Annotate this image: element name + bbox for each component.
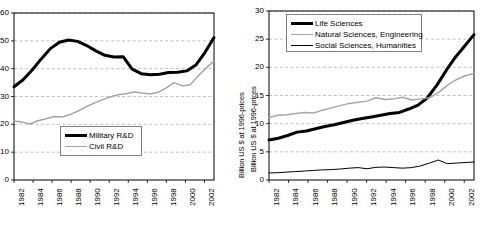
left-chart-y-tick-label: 50 xyxy=(0,37,9,45)
right-chart-x-tick-label: 1982 xyxy=(273,188,281,206)
left-chart-x-tick-label: 1992 xyxy=(113,188,121,206)
legend-item-natural-sciences: Natural Sciences, Engineering xyxy=(291,29,417,40)
right-chart-y-tick-label: 25 xyxy=(247,35,264,43)
right-chart-y-tick-label: 15 xyxy=(247,92,264,100)
figure-two-line-charts: Billion US $ at 1996-prices Military R&D… xyxy=(0,0,484,225)
left-chart-x-tick-label: 1982 xyxy=(18,188,26,206)
legend-swatch-life-sciences xyxy=(291,22,313,25)
left-chart-x-tick-label: 1988 xyxy=(75,188,83,206)
left-chart-y-tick-label: 40 xyxy=(0,65,9,73)
left-chart-x-tick-label: 2002 xyxy=(208,188,216,206)
left-chart-y-tick-label: 10 xyxy=(0,148,9,156)
right-chart-y-tick-label: 5 xyxy=(247,148,264,156)
left-chart-x-tick-label: 1984 xyxy=(37,188,45,206)
left-chart-x-tick-label: 1996 xyxy=(151,188,159,206)
left-chart-y-tick-label: 30 xyxy=(0,93,9,101)
right-chart-y-tick-label: 10 xyxy=(247,120,264,128)
right-chart-x-tick-label: 1988 xyxy=(331,188,339,206)
right-chart-legend: Life Sciences Natural Sciences, Engineer… xyxy=(286,14,422,52)
legend-item-life-sciences: Life Sciences xyxy=(291,18,417,29)
left-chart-y-tick-label: 0 xyxy=(0,176,9,184)
legend-label-life-sciences: Life Sciences xyxy=(315,19,363,28)
right-chart-y-tick-label: 30 xyxy=(247,7,264,15)
right-chart-x-tick-label: 1996 xyxy=(409,188,417,206)
right-chart-x-tick-label: 1998 xyxy=(429,188,437,206)
left-chart-x-tick-label: 1994 xyxy=(132,188,140,206)
legend-label-military-rd: Military R&D xyxy=(89,131,133,140)
left-chart-x-tick-label: 2000 xyxy=(189,188,197,206)
left-chart-x-tick-label: 1986 xyxy=(56,188,64,206)
right-chart-y-tick-label: 20 xyxy=(247,63,264,71)
legend-item-military-rd: Military R&D xyxy=(65,130,137,141)
left-chart-y-tick-label: 20 xyxy=(0,120,9,128)
right-chart-x-tick-label: 1986 xyxy=(312,188,320,206)
right-chart-x-tick-label: 1990 xyxy=(351,188,359,206)
legend-swatch-natural-sciences xyxy=(291,34,313,36)
legend-item-civil-rd: Civil R&D xyxy=(65,141,137,152)
right-chart-y-tick-label: 0 xyxy=(247,176,264,184)
legend-label-civil-rd: Civil R&D xyxy=(89,142,123,151)
left-chart-legend: Military R&D Civil R&D xyxy=(60,126,142,156)
left-chart-y-tick-label: 60 xyxy=(0,9,9,17)
legend-item-social-sciences: Social Sciences, Humanities xyxy=(291,40,417,51)
legend-swatch-civil-rd xyxy=(65,146,87,148)
legend-swatch-social-sciences xyxy=(291,45,313,46)
left-chart-x-tick-label: 1998 xyxy=(170,188,178,206)
right-chart-x-tick-label: 2000 xyxy=(448,188,456,206)
right-chart-x-tick-label: 1984 xyxy=(292,188,300,206)
legend-label-social-sciences: Social Sciences, Humanities xyxy=(315,41,416,50)
right-chart-x-tick-label: 1994 xyxy=(390,188,398,206)
legend-label-natural-sciences: Natural Sciences, Engineering xyxy=(315,30,423,39)
right-chart-x-tick-label: 1992 xyxy=(370,188,378,206)
right-chart-x-tick-label: 2002 xyxy=(468,188,476,206)
legend-swatch-military-rd xyxy=(65,134,87,137)
left-chart-x-tick-label: 1990 xyxy=(94,188,102,206)
